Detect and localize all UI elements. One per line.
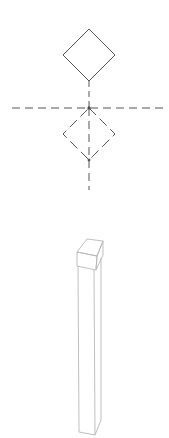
column-post	[77, 239, 103, 435]
shaft-front-right-edge	[94, 270, 95, 435]
cap-front-face	[77, 252, 97, 270]
cap-side-face	[96, 241, 103, 270]
top-diamond	[63, 29, 115, 81]
shaft-left-edge	[78, 266, 79, 432]
shaft-bottom-front	[79, 432, 95, 435]
center-point	[88, 107, 90, 109]
filter-symbol	[12, 29, 165, 190]
bottom-diamond-point	[88, 159, 90, 161]
cap-top-face	[77, 239, 103, 256]
diagram-canvas	[0, 0, 169, 438]
shaft-bottom-side	[95, 420, 101, 435]
